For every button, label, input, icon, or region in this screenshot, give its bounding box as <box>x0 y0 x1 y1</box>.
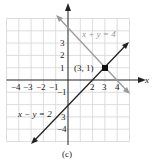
x-tick: −3 <box>23 82 33 92</box>
x-tick: 4 <box>115 82 120 92</box>
point-label: (3, 1) <box>74 63 94 73</box>
x-tick: 2 <box>90 82 95 92</box>
axes <box>7 8 143 145</box>
y-tick: 2 <box>60 50 65 60</box>
line1-label: x + y = 4 <box>81 29 116 39</box>
x-tick: −2 <box>36 82 46 92</box>
x-axis-label: x <box>144 75 149 85</box>
y-tick: −1 <box>57 87 67 97</box>
y-tick: 1 <box>60 63 65 73</box>
graph: (3, 1) x + y = 4 x − y = 2 x −4 −3 −2 −1… <box>0 0 155 162</box>
caption: (c) <box>62 149 72 159</box>
intersection-point <box>102 65 108 71</box>
y-tick: 3 <box>61 112 66 122</box>
y-tick: −4 <box>57 124 67 134</box>
y-tick: 3 <box>60 38 65 48</box>
y-axis-arrow-icon <box>65 3 71 11</box>
x-tick: 3 <box>102 82 107 92</box>
line2-label: x − y = 2 <box>17 109 52 119</box>
x-tick: −4 <box>11 82 21 92</box>
